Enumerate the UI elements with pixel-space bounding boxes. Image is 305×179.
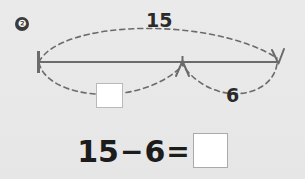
equation-answer-box[interactable] bbox=[193, 133, 228, 168]
worksheet-page: ❷ 15 6 15 − 6 = bbox=[0, 0, 305, 179]
unknown-part-answer-box[interactable] bbox=[96, 83, 123, 108]
total-arc bbox=[39, 28, 277, 62]
equation-left-operand: 15 bbox=[77, 137, 119, 167]
total-label: 15 bbox=[146, 11, 172, 30]
equation-minus-operator: − bbox=[119, 138, 144, 166]
equation-right-operand: 6 bbox=[144, 137, 165, 167]
equation-row: 15 − 6 = bbox=[0, 124, 305, 179]
equation-equals-sign: = bbox=[165, 138, 190, 166]
known-part-label: 6 bbox=[226, 86, 239, 105]
